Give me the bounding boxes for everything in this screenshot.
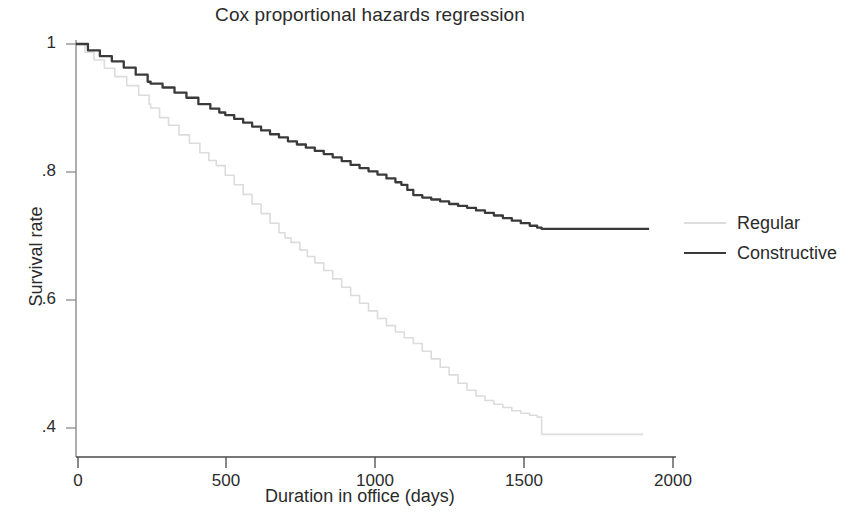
y-axis-title: Survival rate xyxy=(26,137,47,377)
legend-item-constructive[interactable]: Constructive xyxy=(684,238,852,268)
chart-figure: Cox proportional hazards regression 1 .8… xyxy=(0,0,853,515)
x-axis-title: Duration in office (days) xyxy=(0,486,720,507)
y-tick-label-1: 1 xyxy=(16,33,56,53)
chart-legend: Regular Constructive xyxy=(684,208,852,268)
series-line-regular xyxy=(76,44,643,434)
legend-line-icon-regular xyxy=(684,222,726,224)
y-tick-label-04: .4 xyxy=(16,417,56,437)
y-axis-ticks xyxy=(66,44,76,428)
legend-label-regular: Regular xyxy=(737,213,800,234)
legend-item-regular[interactable]: Regular xyxy=(684,208,852,238)
legend-label-constructive: Constructive xyxy=(737,243,837,264)
series-line-constructive xyxy=(76,44,649,229)
legend-line-icon-constructive xyxy=(684,252,726,254)
data-series-layer xyxy=(76,44,649,434)
x-axis-ticks xyxy=(78,457,673,468)
